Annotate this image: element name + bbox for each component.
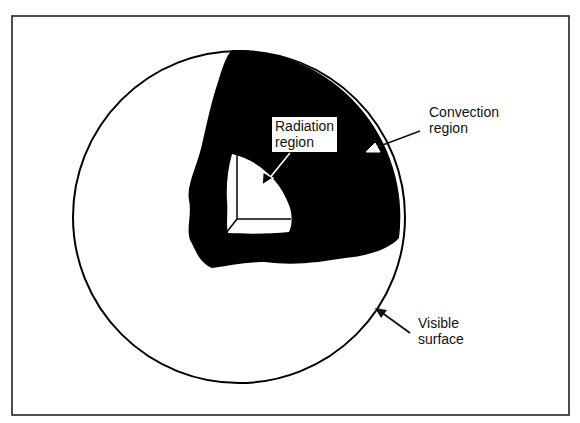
visible-arrow xyxy=(375,308,410,333)
visible-surface-label: Visible surface xyxy=(418,315,464,347)
convection-label-line1: Convection xyxy=(429,104,499,120)
convection-region-label: Convection region xyxy=(429,104,499,136)
convection-label-line2: region xyxy=(429,120,499,136)
diagram-canvas xyxy=(0,0,580,423)
visible-label-line1: Visible xyxy=(418,315,464,331)
visible-label-line2: surface xyxy=(418,331,464,347)
convection-region-shape xyxy=(189,50,401,268)
radiation-label-line1: Radiation xyxy=(275,118,334,134)
radiation-label-line2: region xyxy=(275,134,334,150)
radiation-region-label: Radiation region xyxy=(272,117,337,152)
